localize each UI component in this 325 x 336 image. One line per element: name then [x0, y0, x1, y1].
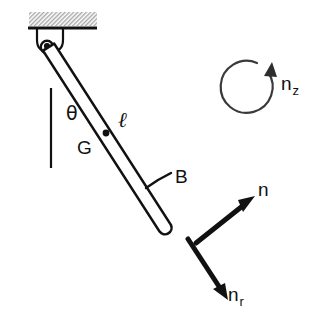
- physics-diagram: θ ℓ G B n nr nz: [0, 0, 325, 336]
- label-n-r-base: n: [228, 284, 239, 305]
- label-g: G: [77, 138, 92, 157]
- label-n-z-subscript: z: [293, 83, 300, 98]
- label-theta: θ: [66, 104, 78, 123]
- b-leader-line: [146, 173, 171, 188]
- label-b: B: [175, 167, 188, 186]
- diagram-canvas: [0, 0, 325, 336]
- pendulum-rod: [43, 44, 172, 235]
- label-n: n: [258, 180, 269, 199]
- label-n-r: nr: [228, 285, 243, 304]
- center-of-mass-dot: [103, 130, 110, 137]
- vector-arrow-n: [196, 196, 255, 243]
- label-n-z: nz: [281, 74, 298, 93]
- rotation-arrow-n-z: [221, 61, 277, 113]
- vector-arrow-n-r: [188, 239, 228, 300]
- ceiling-hatch: [29, 12, 97, 26]
- label-n-z-base: n: [281, 73, 292, 94]
- label-n-r-subscript: r: [240, 294, 244, 309]
- label-ell: ℓ: [118, 110, 127, 131]
